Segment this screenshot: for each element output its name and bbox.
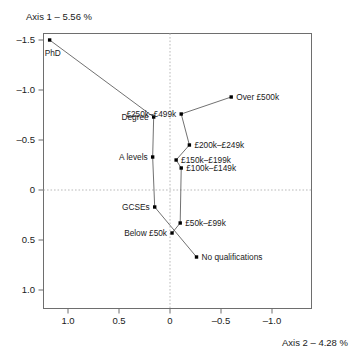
axis-ticks: 1.00.50–0.5–1.0–1.5–1.0–0.500.51.0 xyxy=(17,34,282,326)
data-point[interactable] xyxy=(180,112,183,115)
y-tick-label: –0.5 xyxy=(17,134,36,145)
x-axis-title: Axis 2 – 4.28 % xyxy=(282,337,349,348)
x-tick-label: 1.0 xyxy=(61,315,74,326)
point-label: £200k–£249k xyxy=(194,140,245,150)
plot-canvas: Axis 1 – 5.56 % Axis 2 – 4.28 % 1.00.50–… xyxy=(0,0,353,359)
series-polyline xyxy=(50,40,197,257)
series-2: Over £500k£250k–£499k£200k–£249k£150k–£1… xyxy=(124,92,280,238)
data-point[interactable] xyxy=(48,38,51,41)
y-tick-label: –1.5 xyxy=(17,34,36,45)
point-label: £100k–£149k xyxy=(186,163,237,173)
plot-frame xyxy=(44,34,312,309)
point-label: A levels xyxy=(119,152,148,162)
point-label: £250k–£499k xyxy=(126,109,177,119)
x-tick-label: 0.5 xyxy=(112,315,125,326)
data-point[interactable] xyxy=(151,155,154,158)
data-series-group: PhDDegreeA levelsGCSEsNo qualificationsO… xyxy=(45,38,280,262)
data-point[interactable] xyxy=(195,255,198,258)
point-label: GCSEs xyxy=(122,202,150,212)
point-label: Below £50k xyxy=(124,228,168,238)
data-point[interactable] xyxy=(174,158,177,161)
point-label: Over £500k xyxy=(236,92,280,102)
x-tick-label: –0.5 xyxy=(212,315,231,326)
point-label: £50k–£99k xyxy=(185,218,226,228)
data-point[interactable] xyxy=(179,221,182,224)
y-axis-title: Axis 1 – 5.56 % xyxy=(26,11,93,22)
y-tick-label: 1.0 xyxy=(22,284,35,295)
data-point[interactable] xyxy=(180,166,183,169)
data-point[interactable] xyxy=(153,205,156,208)
x-tick-label: 0 xyxy=(167,315,172,326)
point-label: No qualifications xyxy=(202,252,263,262)
y-tick-label: –1.0 xyxy=(17,84,36,95)
data-point[interactable] xyxy=(188,143,191,146)
x-tick-label: –1.0 xyxy=(263,315,282,326)
y-tick-label: 0.5 xyxy=(22,234,35,245)
point-label: PhD xyxy=(45,48,61,58)
data-point[interactable] xyxy=(170,231,173,234)
data-point[interactable] xyxy=(230,95,233,98)
biplot-chart: Axis 1 – 5.56 % Axis 2 – 4.28 % 1.00.50–… xyxy=(0,0,353,359)
y-tick-label: 0 xyxy=(30,184,35,195)
